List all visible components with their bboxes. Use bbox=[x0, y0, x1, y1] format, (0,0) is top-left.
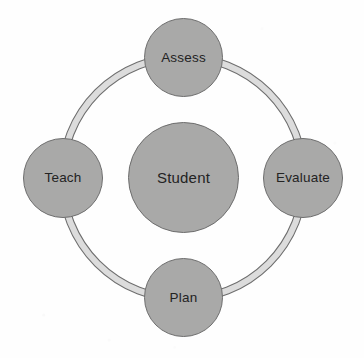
node-plan-label: Plan bbox=[170, 291, 198, 305]
node-plan[interactable]: Plan bbox=[144, 258, 223, 337]
node-assess-label: Assess bbox=[161, 51, 206, 65]
node-evaluate[interactable]: Evaluate bbox=[263, 138, 343, 218]
node-teach[interactable]: Teach bbox=[23, 138, 103, 218]
node-teach-label: Teach bbox=[44, 171, 81, 185]
node-evaluate-label: Evaluate bbox=[276, 171, 330, 185]
node-student[interactable]: Student bbox=[128, 122, 239, 233]
diagram-canvas: Student Assess Evaluate Plan Teach bbox=[0, 0, 364, 358]
node-assess[interactable]: Assess bbox=[144, 18, 223, 97]
node-student-label: Student bbox=[157, 170, 210, 185]
